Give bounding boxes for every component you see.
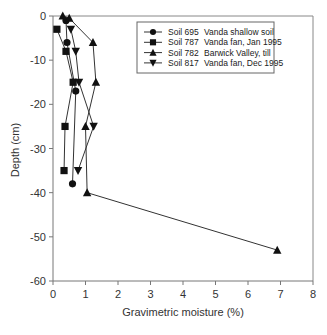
data-point-square bbox=[62, 48, 69, 55]
x-tick-label: 3 bbox=[147, 288, 153, 300]
data-point-circle bbox=[63, 39, 70, 46]
x-tick-label: 7 bbox=[277, 288, 283, 300]
legend-series-description: Vanda shallow soil bbox=[204, 27, 274, 37]
legend-series-description: Vanda fan, Dec 1995 bbox=[204, 58, 284, 68]
data-point-triangle-up bbox=[81, 122, 89, 130]
data-point-triangle-up bbox=[83, 188, 91, 196]
x-tick-label: 6 bbox=[245, 288, 251, 300]
x-tick-label: 5 bbox=[212, 288, 218, 300]
x-tick-label: 1 bbox=[82, 288, 88, 300]
data-point-square bbox=[60, 167, 67, 174]
data-point-triangle-down bbox=[89, 123, 97, 131]
legend-marker-square bbox=[150, 39, 156, 45]
data-point-triangle-down bbox=[74, 167, 82, 175]
data-point-triangle-up bbox=[92, 78, 100, 86]
legend-series-description: Barwick Valley, till bbox=[204, 48, 271, 58]
y-tick-label: -30 bbox=[30, 143, 46, 155]
series-soil-695 bbox=[62, 17, 79, 188]
data-point-triangle-down bbox=[67, 26, 75, 34]
chart: 0123456780-10-20-30-40-50-60 Soil 695Van… bbox=[0, 0, 327, 335]
data-point-triangle-down bbox=[72, 48, 80, 56]
x-tick-label: 2 bbox=[115, 288, 121, 300]
y-tick-label: -40 bbox=[30, 187, 46, 199]
x-axis-title: Gravimetric moisture (%) bbox=[122, 306, 244, 318]
y-tick-label: 0 bbox=[40, 10, 46, 22]
x-tick-label: 0 bbox=[50, 288, 56, 300]
legend-series-name: Soil 787 bbox=[168, 37, 199, 47]
y-tick-label: -20 bbox=[30, 98, 46, 110]
data-point-circle bbox=[72, 87, 79, 94]
legend-series-name: Soil 817 bbox=[168, 58, 199, 68]
y-tick-label: -10 bbox=[30, 54, 46, 66]
legend-series-description: Vanda fan, Jan 1995 bbox=[204, 37, 282, 47]
legend-series-name: Soil 695 bbox=[168, 27, 199, 37]
legend-series-name: Soil 782 bbox=[168, 48, 199, 58]
data-point-square bbox=[53, 26, 60, 33]
data-point-circle bbox=[69, 180, 76, 187]
legend-marker-circle bbox=[150, 29, 156, 35]
data-point-square bbox=[61, 123, 68, 130]
y-axis-title: Depth (cm) bbox=[9, 123, 21, 177]
y-tick-label: -50 bbox=[30, 231, 46, 243]
legend: Soil 695Vanda shallow soilSoil 787Vanda … bbox=[137, 22, 284, 73]
y-tick-label: -60 bbox=[30, 275, 46, 287]
x-tick-label: 4 bbox=[180, 288, 186, 300]
x-tick-label: 8 bbox=[310, 288, 316, 300]
